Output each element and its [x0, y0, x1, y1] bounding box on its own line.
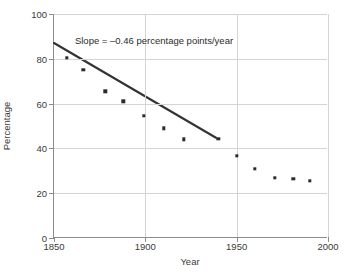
data-point — [253, 167, 256, 170]
gridline-horizontal — [54, 59, 327, 60]
data-point — [292, 177, 295, 180]
y-axis-tick — [49, 14, 54, 15]
gridline-vertical — [328, 14, 329, 237]
x-axis-tick-label: 1900 — [135, 241, 156, 252]
y-axis-tick — [49, 148, 54, 149]
data-point — [65, 56, 68, 59]
slope-annotation: Slope = –0.46 percentage points/year — [75, 35, 233, 46]
data-point — [122, 100, 125, 103]
y-axis-tick-label: 80 — [36, 53, 47, 64]
y-axis-title: Percentage — [1, 102, 12, 151]
regression-line — [54, 14, 327, 237]
data-point — [308, 179, 311, 182]
gridline-horizontal — [54, 14, 327, 15]
data-point — [103, 90, 106, 93]
data-point — [182, 138, 185, 141]
gridline-horizontal — [54, 148, 327, 149]
y-axis-tick — [49, 104, 54, 105]
data-point — [273, 176, 276, 179]
data-point — [162, 127, 165, 130]
x-axis-tick-label: 2000 — [317, 241, 338, 252]
gridline-horizontal — [54, 104, 327, 105]
y-axis-tick-label: 40 — [36, 143, 47, 154]
data-point — [142, 114, 145, 117]
plot-area: 0204060801001850190019502000 — [53, 14, 327, 238]
y-axis-tick-label: 20 — [36, 188, 47, 199]
data-point — [82, 68, 85, 71]
gridline-vertical — [145, 14, 146, 237]
data-point — [217, 137, 220, 140]
x-axis-tick-label: 1950 — [226, 241, 247, 252]
y-axis-tick-label: 60 — [36, 98, 47, 109]
gridline-horizontal — [54, 193, 327, 194]
x-axis-tick-label: 1850 — [43, 241, 64, 252]
chart-container: 0204060801001850190019502000 Year Percen… — [0, 0, 346, 276]
y-axis-tick-label: 100 — [31, 9, 47, 20]
y-axis-tick — [49, 193, 54, 194]
data-point — [235, 154, 238, 157]
y-axis-tick — [49, 59, 54, 60]
gridline-vertical — [237, 14, 238, 237]
x-axis-title: Year — [53, 256, 327, 267]
